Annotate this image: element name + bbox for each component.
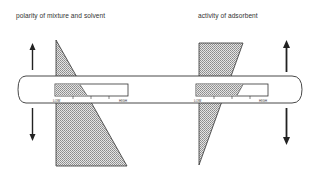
activity-down-arrow-icon: [283, 108, 290, 145]
activity-scale-low-label: LOW: [194, 99, 201, 103]
activity-scale-high-label: HIGH: [259, 99, 268, 103]
chromatography-diagram: LOW HIGH LOW HIGH: [0, 0, 321, 183]
activity-wedge: [199, 43, 243, 165]
polarity-scale-high-label: HIGH: [119, 99, 128, 103]
polarity-down-arrow-icon: [30, 108, 36, 141]
polarity-scale-low-label: LOW: [53, 99, 60, 103]
polarity-up-arrow-icon: [30, 43, 36, 70]
activity-up-arrow-icon: [283, 40, 290, 72]
